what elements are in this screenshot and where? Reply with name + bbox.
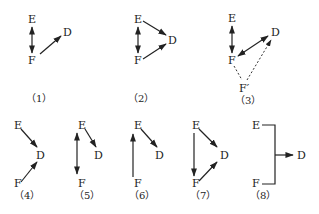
edge-e-d (199, 129, 217, 147)
caption: （8） (250, 190, 276, 201)
diagram-5: E D F （5） (74, 119, 103, 201)
node-f-prime: F′ (239, 82, 250, 95)
node-d: D (155, 149, 164, 162)
caption: （3） (235, 95, 261, 106)
diagram-2: E F D （2） (128, 13, 177, 104)
bracket-e-f (262, 125, 275, 184)
edge-fprime-d (247, 40, 271, 80)
node-e: E (252, 119, 260, 132)
node-e: E (134, 119, 142, 132)
node-f: F (78, 177, 86, 190)
edge-e-d (141, 129, 157, 147)
node-e: E (134, 13, 142, 26)
node-d: D (297, 149, 306, 162)
diagram-6: E D F （6） (129, 119, 164, 201)
diagram-4: E D F （4） (14, 119, 45, 201)
caption: （4） (14, 190, 40, 201)
node-d: D (168, 34, 177, 47)
caption: （5） (74, 190, 100, 201)
node-e: E (228, 12, 236, 25)
edge-f-d (21, 162, 37, 182)
edge-f-d (238, 36, 268, 56)
node-f: F (252, 177, 260, 190)
diagram-1: E F D （1） (26, 13, 72, 104)
node-f: F (134, 177, 142, 190)
node-d: D (63, 26, 72, 39)
node-e: E (28, 13, 36, 26)
diagram-3: E F D F′ （3） (228, 12, 280, 106)
node-e: E (14, 119, 22, 132)
node-d: D (271, 26, 280, 39)
caption: （1） (26, 93, 52, 104)
edge-fprime-f (234, 66, 242, 80)
diagram-7: E D F （7） (190, 119, 229, 201)
node-f: F (192, 177, 200, 190)
node-d: D (220, 149, 229, 162)
node-d: D (94, 149, 103, 162)
node-f: F (134, 54, 142, 67)
node-e: E (192, 119, 200, 132)
node-f: F (228, 54, 236, 67)
edge-e-d (143, 21, 166, 35)
edge-f-d (40, 36, 61, 54)
causal-diagrams: E F D （1） E F D （2） E F D F′ （3） E D F （… (0, 0, 319, 214)
edge-f-d (199, 162, 217, 181)
node-f: F (28, 54, 36, 67)
node-e: E (78, 119, 86, 132)
caption: （7） (190, 190, 216, 201)
edge-f-d (143, 44, 166, 59)
node-d: D (36, 149, 45, 162)
caption: （6） (129, 190, 155, 201)
edge-e-d (21, 129, 37, 147)
caption: （2） (128, 93, 154, 104)
edge-e-d (85, 129, 96, 147)
node-f: F (14, 177, 22, 190)
diagram-8: E D F （8） (250, 119, 306, 201)
